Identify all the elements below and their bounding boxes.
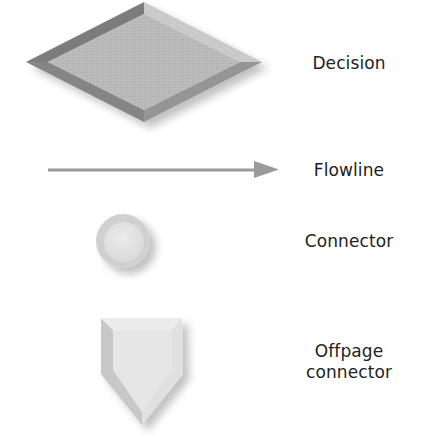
decision-symbol [26,2,262,122]
offpage-label-line2: connector [284,362,414,383]
offpage-label-line1: Offpage [284,341,414,362]
offpage-bevel-top [101,318,182,330]
offpage-connector-label: Offpage connector [284,341,414,383]
offpage-connector-symbol [101,318,183,425]
flowline-arrowhead-icon [254,161,279,178]
decision-face [48,14,240,110]
connector-label: Connector [284,231,414,252]
decision-label: Decision [284,53,414,74]
flowline-symbol [48,161,279,178]
connector-symbol [96,214,150,268]
flowline-label: Flowline [284,160,414,181]
connector-inner-face [104,222,144,262]
